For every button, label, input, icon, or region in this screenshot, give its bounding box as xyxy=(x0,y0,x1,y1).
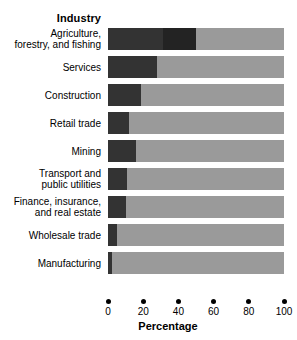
bar-value-segment xyxy=(163,28,196,50)
x-tick-label: 20 xyxy=(128,306,158,317)
bar-value[interactable] xyxy=(108,168,127,190)
bar-value[interactable] xyxy=(108,252,112,274)
x-tick-marker xyxy=(211,299,216,304)
bar-row[interactable] xyxy=(108,224,284,246)
x-tick-label: 80 xyxy=(234,306,264,317)
category-label: Retail trade xyxy=(0,118,101,129)
bar-value[interactable] xyxy=(108,56,157,78)
x-tick-marker xyxy=(141,299,146,304)
category-label-line: Mining xyxy=(0,146,101,157)
category-label-line: Wholesale trade xyxy=(0,230,101,241)
category-label: Mining xyxy=(0,146,101,157)
industry-percentage-bar-chart: Industry Agriculture,forestry, and fishi… xyxy=(0,0,297,340)
category-label: Finance, insurance,and real estate xyxy=(0,196,101,218)
bar-track xyxy=(108,224,284,246)
category-label-line: Finance, insurance, xyxy=(0,196,101,207)
category-label: Wholesale trade xyxy=(0,230,101,241)
bar-track xyxy=(108,196,284,218)
bar-row[interactable] xyxy=(108,28,284,50)
category-label-line: Transport and xyxy=(0,168,101,179)
category-label: Construction xyxy=(0,90,101,101)
bar-track xyxy=(108,112,284,134)
top-divider xyxy=(0,2,297,4)
x-tick-label: 0 xyxy=(93,306,123,317)
plot-area xyxy=(108,28,284,296)
bar-row[interactable] xyxy=(108,84,284,106)
category-label-line: and real estate xyxy=(0,207,101,218)
category-label-line: forestry, and fishing xyxy=(0,39,101,50)
category-label-line: public utilities xyxy=(0,179,101,190)
bar-value[interactable] xyxy=(108,224,117,246)
bar-value[interactable] xyxy=(108,84,141,106)
bar-value[interactable] xyxy=(108,196,126,218)
y-axis-title: Industry xyxy=(0,12,101,24)
x-tick-label: 60 xyxy=(199,306,229,317)
x-tick-label: 100 xyxy=(269,306,297,317)
bar-row[interactable] xyxy=(108,252,284,274)
category-label-line: Manufacturing xyxy=(0,258,101,269)
bar-row[interactable] xyxy=(108,196,284,218)
x-tick-label: 40 xyxy=(163,306,193,317)
bar-value[interactable] xyxy=(108,112,129,134)
bar-value[interactable] xyxy=(108,28,196,50)
bar-row[interactable] xyxy=(108,168,284,190)
bar-track xyxy=(108,252,284,274)
category-label-line: Agriculture, xyxy=(0,28,101,39)
x-axis-title: Percentage xyxy=(108,320,228,332)
category-label: Services xyxy=(0,62,101,73)
category-label-line: Retail trade xyxy=(0,118,101,129)
bar-row[interactable] xyxy=(108,112,284,134)
bar-track xyxy=(108,168,284,190)
category-label-line: Construction xyxy=(0,90,101,101)
category-label: Agriculture,forestry, and fishing xyxy=(0,28,101,50)
category-label: Manufacturing xyxy=(0,258,101,269)
bar-value[interactable] xyxy=(108,140,136,162)
x-tick-marker xyxy=(106,299,111,304)
x-tick-marker xyxy=(176,299,181,304)
bar-row[interactable] xyxy=(108,140,284,162)
category-label: Transport andpublic utilities xyxy=(0,168,101,190)
x-tick-marker xyxy=(282,299,287,304)
bar-row[interactable] xyxy=(108,56,284,78)
category-label-line: Services xyxy=(0,62,101,73)
x-tick-marker xyxy=(246,299,251,304)
